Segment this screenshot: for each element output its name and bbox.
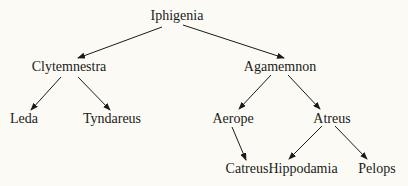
arrow-clytemnestra-to-leda [31,77,61,110]
node-hippodamia: Hippodamia [268,162,337,176]
node-aerope: Aerope [212,112,253,126]
edges-layer [0,0,408,186]
arrow-iphigenia-to-agamemnon [183,25,284,58]
node-clytemnestra: Clytemnestra [32,60,107,74]
arrow-agamemnon-to-aerope [239,75,271,109]
node-leda: Leda [10,112,38,126]
arrow-aerope-to-catreus [232,127,246,160]
node-catreus: Catreus [226,162,269,176]
node-tyndareus: Tyndareus [83,112,141,126]
arrow-iphigenia-to-clytemnestra [78,27,162,58]
node-atreus: Atreus [313,112,350,126]
arrow-atreus-to-pelops [335,126,367,159]
arrow-clytemnestra-to-tyndareus [78,77,110,110]
node-iphigenia: Iphigenia [151,9,204,23]
arrow-atreus-to-hippodamia [289,126,322,159]
node-pelops: Pelops [358,162,395,176]
node-agamemnon: Agamemnon [244,60,316,74]
family-tree-diagram: Iphigenia Clytemnestra Agamemnon Leda Ty… [0,0,408,186]
arrow-agamemnon-to-atreus [288,75,320,109]
